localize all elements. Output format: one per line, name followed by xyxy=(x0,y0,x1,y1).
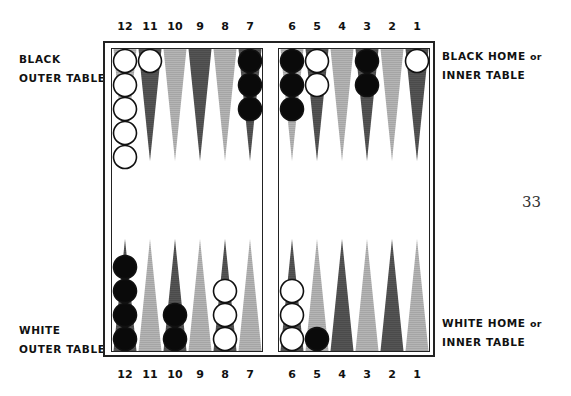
board-point-light xyxy=(139,239,162,351)
board-points-and-checkers xyxy=(0,0,571,396)
board-point-light xyxy=(164,49,187,161)
black-checker[interactable] xyxy=(114,304,137,327)
white-checker[interactable] xyxy=(281,304,304,327)
board-point-light xyxy=(189,239,212,351)
black-checker[interactable] xyxy=(114,280,137,303)
black-checker[interactable] xyxy=(239,50,262,73)
white-checker[interactable] xyxy=(139,50,162,73)
white-checker[interactable] xyxy=(114,74,137,97)
board-point-dark xyxy=(189,49,212,161)
white-checker[interactable] xyxy=(114,146,137,169)
board-point-light xyxy=(239,239,262,351)
black-checker[interactable] xyxy=(164,328,187,351)
black-checker[interactable] xyxy=(239,74,262,97)
board-point-light xyxy=(331,49,354,161)
board-point-dark xyxy=(381,239,404,351)
black-checker[interactable] xyxy=(114,256,137,279)
board-point-dark xyxy=(331,239,354,351)
white-checker[interactable] xyxy=(114,50,137,73)
white-checker[interactable] xyxy=(306,74,329,97)
white-checker[interactable] xyxy=(406,50,429,73)
board-point-light xyxy=(214,49,237,161)
white-checker[interactable] xyxy=(214,328,237,351)
black-checker[interactable] xyxy=(281,74,304,97)
white-checker[interactable] xyxy=(114,98,137,121)
white-checker[interactable] xyxy=(281,328,304,351)
white-checker[interactable] xyxy=(214,304,237,327)
black-checker[interactable] xyxy=(164,304,187,327)
black-checker[interactable] xyxy=(306,328,329,351)
white-checker[interactable] xyxy=(281,280,304,303)
black-checker[interactable] xyxy=(114,328,137,351)
board-point-light xyxy=(381,49,404,161)
board-point-light xyxy=(356,239,379,351)
black-checker[interactable] xyxy=(239,98,262,121)
black-checker[interactable] xyxy=(356,74,379,97)
black-checker[interactable] xyxy=(281,98,304,121)
white-checker[interactable] xyxy=(214,280,237,303)
black-checker[interactable] xyxy=(356,50,379,73)
board-point-light xyxy=(406,239,429,351)
white-checker[interactable] xyxy=(114,122,137,145)
white-checker[interactable] xyxy=(306,50,329,73)
black-checker[interactable] xyxy=(281,50,304,73)
